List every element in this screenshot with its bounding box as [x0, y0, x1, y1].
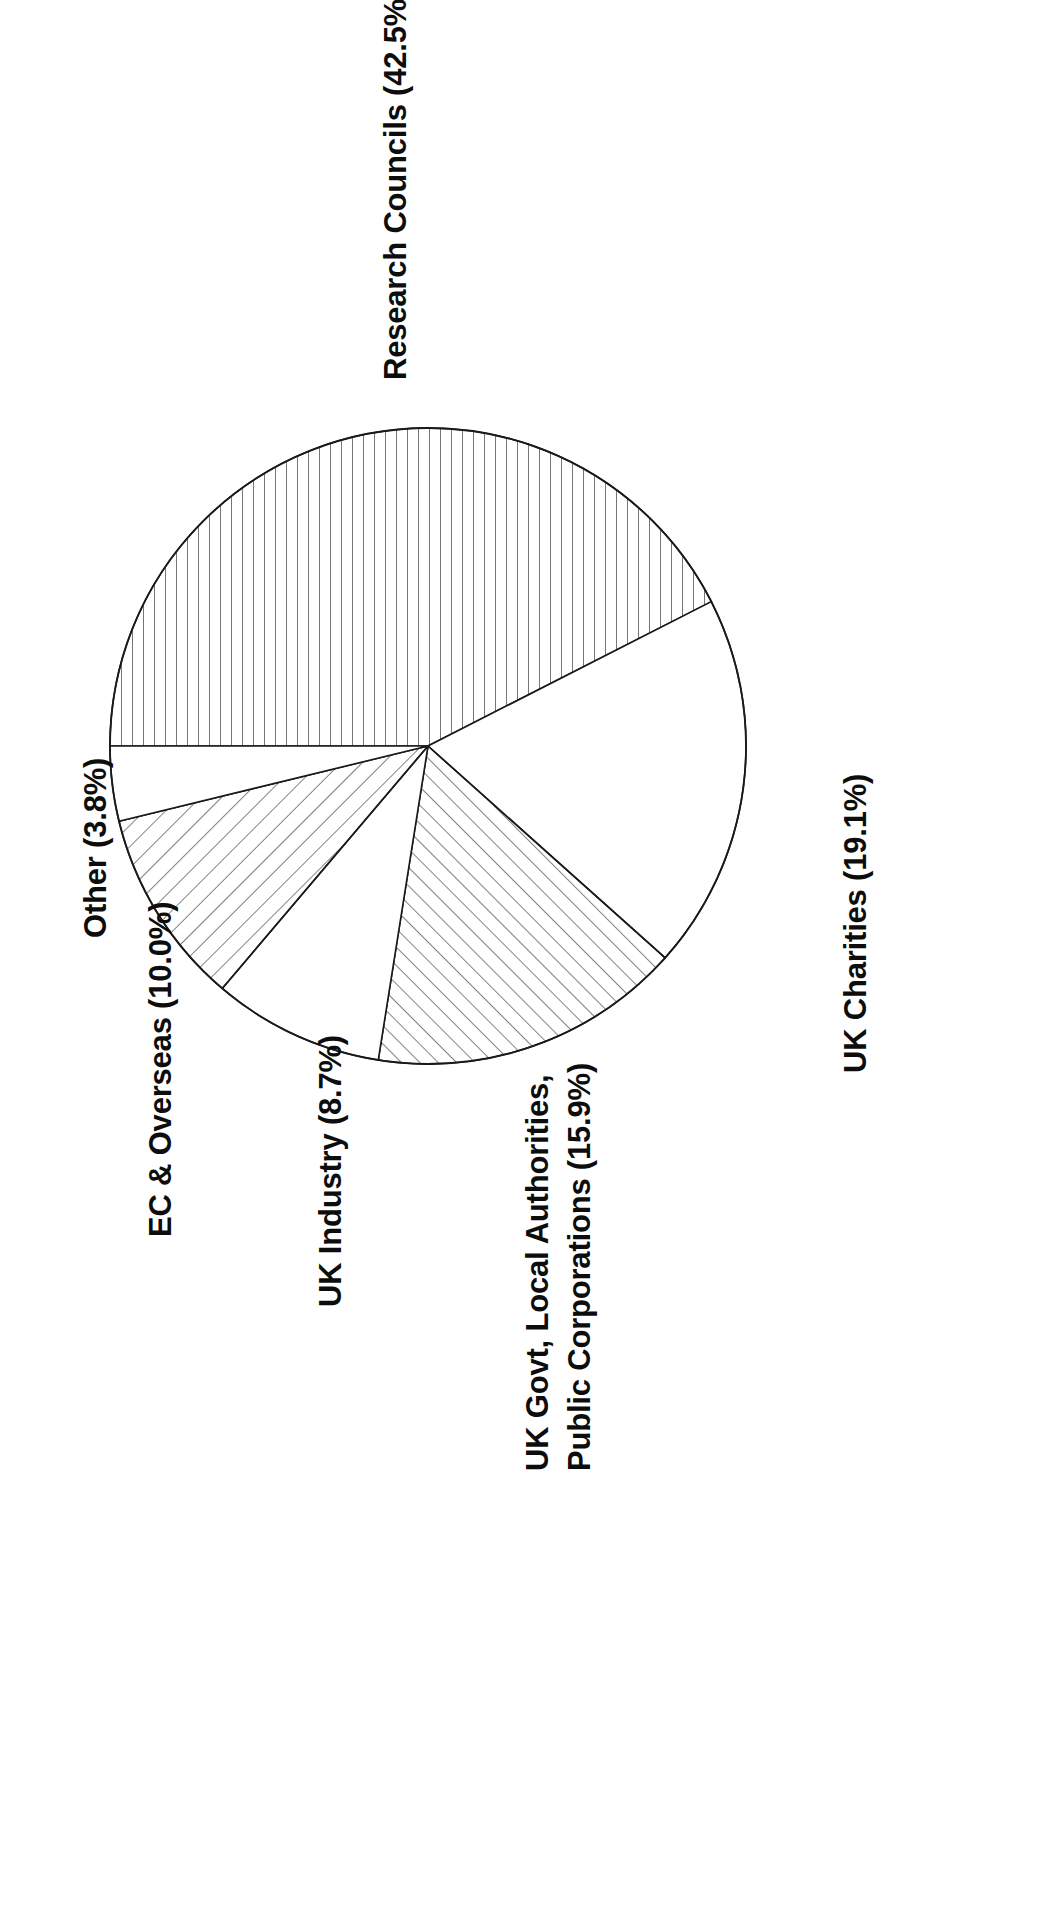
slice-label-other: Other (3.8%) — [78, 758, 114, 938]
slice-label-uk-charities: UK Charities (19.1%) — [838, 774, 874, 1073]
pie-slices-group — [110, 428, 746, 1064]
slice-label-uk-govt-line1: UK Govt, Local Authorities, — [520, 1075, 556, 1471]
slice-label-uk-govt-line2: Public Corporations (15.9%) — [562, 1063, 598, 1471]
slice-label-research-councils: Research Councils (42.5%) — [378, 0, 414, 380]
slice-label-ec-overseas: EC & Overseas (10.0%) — [143, 902, 179, 1237]
pie-chart-figure: Research Councils (42.5%) UK Charities (… — [0, 0, 1050, 1907]
slice-label-uk-industry: UK Industry (8.7%) — [313, 1035, 349, 1307]
